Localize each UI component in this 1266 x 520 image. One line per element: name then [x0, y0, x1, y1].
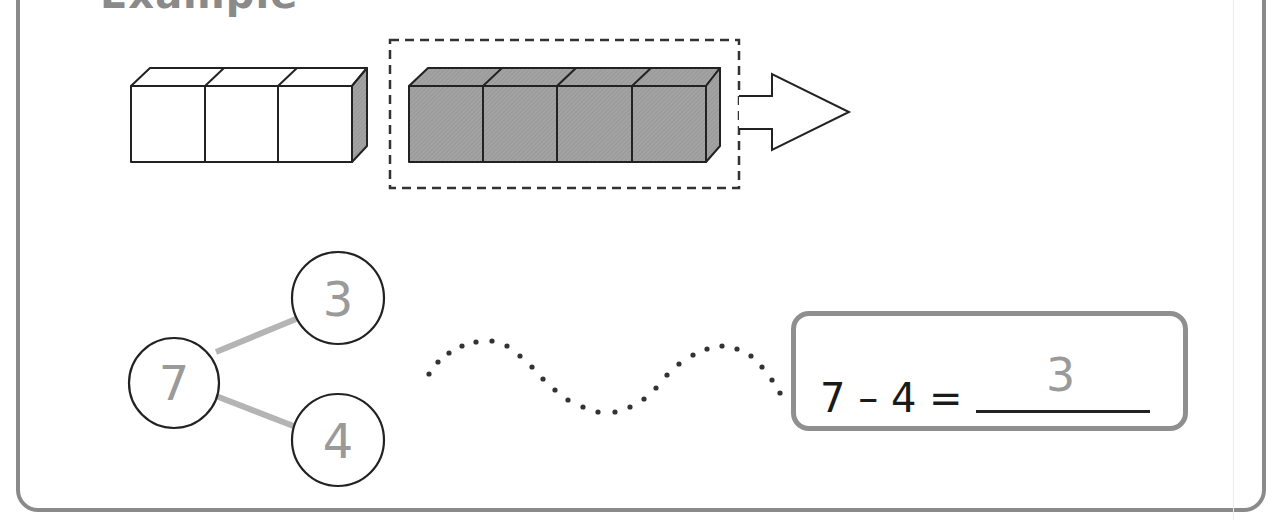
- dotted-wave-connector: [426, 338, 782, 414]
- white-cube-2: [205, 86, 278, 162]
- shaded-cube-1: [409, 86, 483, 162]
- shaded-cube-2: [483, 86, 557, 162]
- equation-box: 7 – 4 = 3: [791, 311, 1188, 431]
- shaded-cube-4: [632, 86, 706, 162]
- equation-expression: 7 – 4 =: [820, 378, 963, 418]
- arrow-right-icon: [739, 74, 849, 150]
- white-cube-3: [278, 86, 352, 162]
- whole-number: 7: [159, 355, 190, 411]
- part-top-number: 3: [323, 271, 354, 327]
- number-bond: 7 3 4: [129, 252, 384, 486]
- white-cube-1: [131, 86, 205, 162]
- shaded-cube-3: [557, 86, 632, 162]
- answer-blank[interactable]: 3: [976, 358, 1150, 413]
- shaded-cube-train: [409, 68, 720, 162]
- white-cube-train: [131, 68, 367, 162]
- number-bond-links: [216, 319, 296, 427]
- answer-value: 3: [1046, 352, 1075, 398]
- part-bottom-number: 4: [323, 413, 354, 469]
